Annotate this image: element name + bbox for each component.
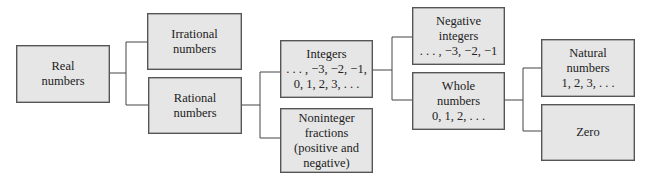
node-negative-integers: Negative integers . . . , −3, −2, −1 (412, 7, 505, 65)
node-integers: Integers . . . , −3, −2, −1, 0, 1, 2, 3,… (280, 40, 373, 98)
node-label: Rational (174, 91, 216, 106)
node-label: . . . , −3, −2, −1 (420, 44, 497, 59)
node-irrational-numbers: Irrational numbers (147, 13, 242, 70)
node-label: Integers (306, 47, 346, 62)
node-label: 0, 1, 2, . . . (432, 109, 485, 124)
node-label: Noninteger (298, 111, 354, 126)
node-label: 1, 2, 3, . . . (561, 76, 614, 91)
node-label: numbers (41, 74, 84, 89)
node-real-numbers: Real numbers (16, 45, 110, 103)
node-zero: Zero (541, 104, 635, 161)
node-noninteger-fractions: Noninteger fractions (positive and negat… (280, 108, 373, 173)
node-whole-numbers: Whole numbers 0, 1, 2, . . . (412, 72, 505, 130)
node-label: Irrational (171, 27, 218, 42)
node-label: . . . , −3, −2, −1, (286, 62, 367, 77)
node-label: Real (52, 59, 75, 74)
node-label: numbers (437, 94, 480, 109)
node-natural-numbers: Natural numbers 1, 2, 3, . . . (541, 39, 635, 97)
node-label: numbers (173, 106, 216, 121)
node-label: Zero (576, 125, 600, 140)
node-label: negative) (303, 156, 350, 171)
node-rational-numbers: Rational numbers (148, 77, 242, 134)
node-label: fractions (305, 126, 349, 141)
node-label: Whole (442, 79, 475, 94)
node-label: Negative (436, 14, 481, 29)
node-label: numbers (173, 42, 216, 57)
node-label: (positive and (294, 141, 359, 156)
node-label: 0, 1, 2, 3, . . . (294, 77, 360, 92)
node-label: integers (439, 29, 479, 44)
node-label: numbers (566, 61, 609, 76)
node-label: Natural (569, 46, 606, 61)
